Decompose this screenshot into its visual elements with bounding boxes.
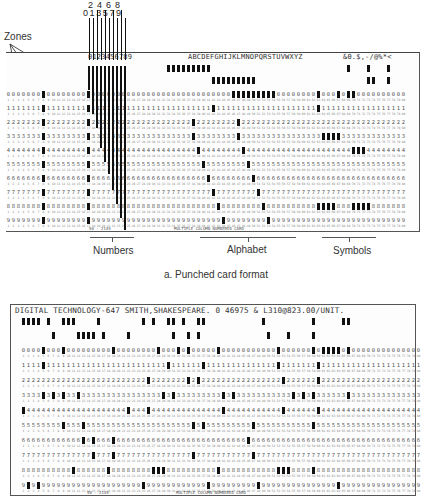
zone-punch	[267, 332, 270, 339]
zone-punch	[177, 65, 180, 72]
zone-punch	[212, 77, 215, 84]
column-number-row: 1234567891011121314151617181920212223242…	[6, 168, 406, 172]
digit-row-2: 2222222222222222222222222222222222222222…	[6, 119, 406, 126]
digit-row-7: 7777777777777777777777777777777777777777…	[21, 452, 421, 459]
symbols-brace	[322, 237, 376, 242]
digit-row-7: 7777777777777777777777777777777777777777…	[6, 189, 406, 196]
zone-punch	[342, 318, 345, 325]
card-header-symbols: &0.$,-/@%*<	[343, 53, 392, 61]
zone-punch	[187, 332, 190, 339]
digit-row-6: 6666666666666666666666666666666666666666…	[6, 175, 406, 182]
zone-punch	[312, 318, 315, 325]
card-footer-left: 50 - 2149	[87, 490, 109, 495]
column-number-row: 1234567891011121314151617181920212223242…	[21, 384, 421, 388]
digit-row-0: 0000000000000000000000000000000000000000…	[6, 91, 406, 98]
digit-row-0: 0000000000000000000000000000000000000000…	[21, 347, 421, 354]
column-number-row: 1234567891011121314151617181920212223242…	[21, 444, 421, 448]
zone-punch	[237, 77, 240, 84]
card-footer-left: 50 - 2149	[89, 226, 111, 231]
digit-row-2: 2222222222222222222222222222222222222222…	[21, 377, 421, 384]
zone-punch	[227, 77, 230, 84]
zone-punch	[222, 77, 225, 84]
zone-punch	[187, 65, 190, 72]
zone-punch	[142, 318, 145, 325]
column-number-row: 1234567891011121314151617181920212223242…	[21, 399, 421, 403]
zone-punch	[152, 318, 155, 325]
zone-punch	[172, 65, 175, 72]
digit-row-6: 6666666666666666666666666666666666666666…	[21, 437, 421, 444]
column-digits-bottom: 013579	[83, 8, 123, 18]
zone-punch	[167, 318, 170, 325]
column-number-row: 1234567891011121314151617181920212223242…	[21, 369, 421, 373]
column-number-row: 1234567891011121314151617181920212223242…	[6, 98, 406, 102]
column-number-row: 1234567891011121314151617181920212223242…	[21, 474, 421, 478]
digit-row-8: 8888888888888888888888888888888888888888…	[21, 467, 421, 474]
zone-punch	[37, 318, 40, 325]
zone-punch	[32, 318, 35, 325]
zone-punch	[197, 65, 200, 72]
zone-punch	[232, 77, 235, 84]
zone-punch	[52, 332, 55, 339]
digit-row-3: 3333333333333333333333333333333333333333…	[6, 133, 406, 140]
zone-punch	[192, 65, 195, 72]
punched-card-example: DIGITAL TECHNOLOGY-647 SMITH,SHAKESPEARE…	[10, 304, 416, 496]
numbers-label: Numbers	[93, 245, 134, 256]
card-footer-center: MULTIPLE COLUMN NUMBERED CARD	[176, 490, 246, 495]
alphabet-label: Alphabet	[227, 244, 266, 255]
zone-punch	[82, 332, 85, 339]
zone-punch	[347, 318, 350, 325]
column-number-row: 1234567891011121314151617181920212223242…	[6, 182, 406, 186]
zone-punch	[22, 318, 25, 325]
zone-punch	[197, 332, 200, 339]
zone-punch	[47, 318, 50, 325]
column-number-row: 1234567891011121314151617181920212223242…	[6, 210, 406, 214]
zone-punch	[172, 332, 175, 339]
zone-punch	[97, 318, 100, 325]
zone-punch	[182, 318, 185, 325]
zone-punch	[202, 65, 205, 72]
column-number-row: 1234567891011121314151617181920212223242…	[6, 126, 406, 130]
zone-punch	[287, 332, 290, 339]
zone-punch	[72, 318, 75, 325]
column-number-row: 1234567891011121314151617181920212223242…	[6, 112, 406, 116]
zone-punch	[62, 318, 65, 325]
figure-a-caption: a. Punched card format	[164, 269, 268, 280]
punched-card-format: 0123456789 ABCDEFGHIJKLMNOPQRSTUVWXYZ &0…	[6, 52, 420, 232]
zone-punch	[242, 77, 245, 84]
zone-punch	[367, 77, 370, 84]
zone-punch	[197, 318, 200, 325]
zone-punch	[347, 65, 350, 72]
zone-punch	[67, 318, 70, 325]
zone-punch	[312, 332, 315, 339]
digit-row-3: 3333333333333333333333333333333333333333…	[21, 392, 421, 399]
card-header-text: DIGITAL TECHNOLOGY-647 SMITH,SHAKESPEARE…	[15, 306, 344, 315]
digit-row-1: 1111111111111111111111111111111111111111…	[6, 105, 406, 112]
digit-row-5: 5555555555555555555555555555555555555555…	[21, 422, 421, 429]
column-number-row: 1234567891011121314151617181920212223242…	[6, 196, 406, 200]
zone-punch	[252, 77, 255, 84]
zone-punch	[77, 332, 80, 339]
numbers-brace	[90, 237, 134, 242]
zone-punch	[127, 332, 130, 339]
digit-row-5: 5555555555555555555555555555555555555555…	[6, 161, 406, 168]
card-footer-center: MULTIPLE COLUMN NUMBERED CARD	[174, 226, 244, 231]
digit-row-9: 9999999999999999999999999999999999999999…	[21, 482, 421, 489]
column-number-row: 1234567891011121314151617181920212223242…	[6, 140, 406, 144]
zone-punch	[167, 65, 170, 72]
zone-punch	[367, 65, 370, 72]
column-number-row: 1234567891011121314151617181920212223242…	[6, 154, 406, 158]
digit-row-4: 4444444444444444444444444444444444444444…	[21, 407, 421, 414]
card-header-alphabet: ABCDEFGHIJKLMNOPQRSTUVWXYZ	[188, 53, 303, 61]
zone-punch	[217, 77, 220, 84]
symbols-label: Symbols	[333, 245, 371, 256]
alphabet-brace	[200, 237, 296, 242]
column-number-row: 1234567891011121314151617181920212223242…	[21, 354, 421, 358]
zone-punch	[247, 77, 250, 84]
column-number-row: 1234567891011121314151617181920212223242…	[21, 459, 421, 463]
digit-row-8: 8888888888888888888888888888888888888888…	[6, 203, 406, 210]
zone-punch	[387, 65, 390, 72]
digit-row-4: 4444444444444444444444444444444444444444…	[6, 147, 406, 154]
zone-punch	[27, 318, 30, 325]
digit-row-1: 1111111111111111111111111111111111111111…	[21, 362, 421, 369]
column-number-row: 1234567891011121314151617181920212223242…	[21, 429, 421, 433]
